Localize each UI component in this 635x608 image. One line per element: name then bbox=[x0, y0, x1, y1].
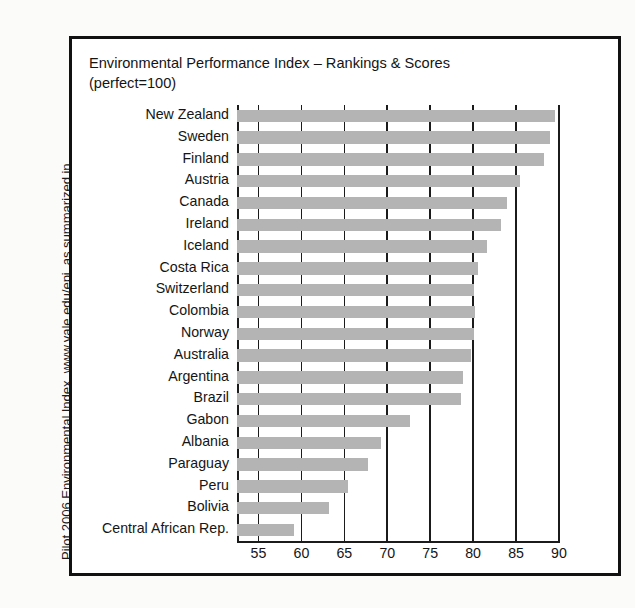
bar-row: Peru bbox=[237, 476, 559, 498]
bar bbox=[237, 262, 478, 274]
bar bbox=[237, 524, 294, 536]
bar-row: New Zealand bbox=[237, 105, 559, 127]
bar bbox=[237, 371, 463, 383]
bar-row: Canada bbox=[237, 192, 559, 214]
bar bbox=[237, 153, 544, 165]
x-tick-55: 55 bbox=[251, 545, 267, 561]
bar bbox=[237, 219, 501, 231]
bar-row: Australia bbox=[237, 345, 559, 367]
chart-title: Environmental Performance Index – Rankin… bbox=[89, 53, 599, 93]
category-label: Norway bbox=[181, 322, 229, 344]
bar-row: Paraguay bbox=[237, 454, 559, 476]
category-label: Ireland bbox=[186, 213, 229, 235]
category-label: Brazil bbox=[194, 387, 229, 409]
category-label: Bolivia bbox=[187, 496, 229, 518]
bar bbox=[237, 110, 555, 122]
bar bbox=[237, 349, 471, 361]
bar bbox=[237, 197, 507, 209]
bar-row: Costa Rica bbox=[237, 258, 559, 280]
bar bbox=[237, 458, 368, 470]
bar-row: Bolivia bbox=[237, 497, 559, 519]
bar-row: Austria bbox=[237, 170, 559, 192]
bar bbox=[237, 240, 487, 252]
category-label: Canada bbox=[179, 191, 229, 213]
category-label: Peru bbox=[199, 475, 229, 497]
bar-row: Albania bbox=[237, 432, 559, 454]
x-axis-line bbox=[237, 541, 560, 543]
bar bbox=[237, 131, 550, 143]
source-caption: Pilot 2006 Environmental Index, www.yale… bbox=[0, 0, 66, 608]
category-label: New Zealand bbox=[145, 104, 229, 126]
category-label: Iceland bbox=[183, 235, 229, 257]
bar-row: Switzerland bbox=[237, 279, 559, 301]
bar bbox=[237, 415, 410, 427]
x-tick-60: 60 bbox=[294, 545, 310, 561]
category-label: Argentina bbox=[168, 366, 229, 388]
category-label: Colombia bbox=[169, 300, 229, 322]
x-tick-90: 90 bbox=[551, 545, 567, 561]
category-label: Costa Rica bbox=[160, 257, 229, 279]
bar bbox=[237, 284, 474, 296]
x-tick-80: 80 bbox=[465, 545, 481, 561]
bar bbox=[237, 502, 329, 514]
bar bbox=[237, 480, 348, 492]
x-axis-tick-labels: 5560657075808590 bbox=[237, 545, 559, 571]
bar bbox=[237, 175, 520, 187]
page-canvas: Pilot 2006 Environmental Index, www.yale… bbox=[0, 0, 635, 608]
x-tick-70: 70 bbox=[379, 545, 395, 561]
bar bbox=[237, 437, 381, 449]
bar-row: Central African Rep. bbox=[237, 519, 559, 541]
category-label: Sweden bbox=[178, 126, 229, 148]
chart-frame: Environmental Performance Index – Rankin… bbox=[69, 36, 621, 576]
bar-row: Iceland bbox=[237, 236, 559, 258]
bar-row: Brazil bbox=[237, 388, 559, 410]
bar-row: Argentina bbox=[237, 367, 559, 389]
bar-row: Colombia bbox=[237, 301, 559, 323]
bar-row: Ireland bbox=[237, 214, 559, 236]
category-label: Finland bbox=[182, 148, 229, 170]
x-tick-85: 85 bbox=[508, 545, 524, 561]
x-tick-65: 65 bbox=[336, 545, 352, 561]
bar-row: Sweden bbox=[237, 127, 559, 149]
bar-row: Gabon bbox=[237, 410, 559, 432]
category-label: Albania bbox=[182, 431, 229, 453]
plot-area: New ZealandSwedenFinlandAustriaCanadaIre… bbox=[237, 105, 559, 541]
bar bbox=[237, 306, 475, 318]
bar-row: Norway bbox=[237, 323, 559, 345]
x-tick-75: 75 bbox=[422, 545, 438, 561]
category-label: Paraguay bbox=[168, 453, 229, 475]
bar bbox=[237, 393, 461, 405]
bar bbox=[237, 328, 474, 340]
category-label: Australia bbox=[174, 344, 229, 366]
category-label: Austria bbox=[185, 169, 229, 191]
category-label: Central African Rep. bbox=[102, 518, 229, 540]
bar-row: Finland bbox=[237, 149, 559, 171]
category-label: Gabon bbox=[186, 409, 229, 431]
category-label: Switzerland bbox=[156, 278, 229, 300]
